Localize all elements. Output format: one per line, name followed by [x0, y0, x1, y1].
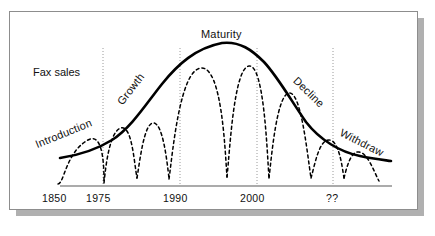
- x-tick-label-2000: 2000: [240, 193, 265, 204]
- wave-generation-1: [58, 139, 104, 184]
- wave-generation-6: [269, 93, 311, 178]
- wave-generation-7: [311, 140, 344, 178]
- x-tick-label-1990: 1990: [163, 193, 188, 204]
- fax-sales-curve: [60, 43, 391, 161]
- x-tick-label-1850: 1850: [42, 193, 67, 204]
- x-tick-label-unknown: ??: [326, 193, 338, 204]
- phase-label-maturity: Maturity: [201, 29, 242, 40]
- wave-generation-2: [104, 128, 137, 183]
- x-tick-label-1975: 1975: [86, 193, 111, 204]
- figure-stage: Fax sales Introduction Growth Maturity D…: [0, 0, 435, 236]
- wave-generation-5: [227, 66, 269, 178]
- series-label-fax-sales: Fax sales: [33, 67, 80, 78]
- generation-waves: [58, 66, 379, 184]
- wave-generation-4: [169, 68, 227, 179]
- wave-generation-3: [137, 123, 169, 178]
